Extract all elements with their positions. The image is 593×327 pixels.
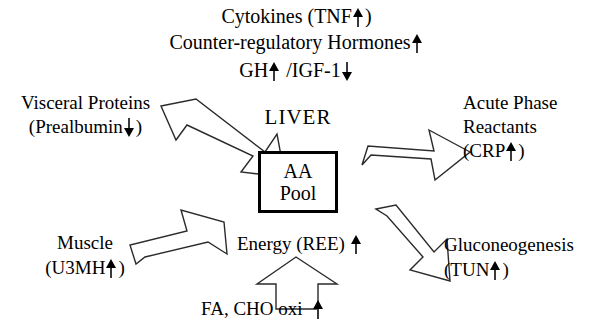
muscle-line2: (U3MH)	[20, 257, 150, 279]
crp-label: (CRP	[463, 140, 505, 161]
up-arrow-icon	[412, 34, 423, 53]
u3mh-label: (U3MH	[45, 257, 105, 278]
visceral-proteins-line2: (Prealbumin)	[8, 116, 163, 138]
liver-metabolism-diagram: Cytokines (TNF) Counter-regulatory Hormo…	[0, 0, 593, 327]
liver-label: LIVER	[246, 105, 350, 130]
prealbumin-label: (Prealbumin	[29, 116, 123, 137]
gluconeogenesis-line2: (TUN)	[444, 259, 509, 281]
up-arrow-icon	[506, 142, 517, 161]
cytokines-line: Cytokines (TNF)	[0, 5, 593, 29]
cytokines-paren: )	[365, 5, 372, 27]
gh-igf1-line: GH /IGF-1	[0, 59, 593, 83]
aa-pool-line1: AA	[284, 160, 313, 182]
up-arrow-icon	[490, 261, 501, 280]
arrow-pool-to-acute-phase	[362, 130, 470, 180]
counter-regulatory-hormones-line: Counter-regulatory Hormones	[0, 31, 593, 55]
counter-regulatory-hormones-label: Counter-regulatory Hormones	[169, 31, 410, 53]
fa-cho-oxi-label: FA, CHO oxi	[201, 298, 303, 319]
up-arrow-icon	[313, 300, 324, 319]
acute-phase-line2: Reactants	[463, 116, 537, 138]
up-arrow-icon	[351, 235, 362, 254]
crp-paren: )	[518, 140, 524, 161]
tun-paren: )	[502, 259, 508, 280]
aa-pool-box: AA Pool	[258, 151, 338, 213]
visceral-proteins-line1: Visceral Proteins	[8, 92, 163, 114]
acute-phase-line1: Acute Phase	[463, 92, 557, 114]
up-arrow-icon	[106, 259, 117, 278]
cytokines-label: Cytokines (TNF	[221, 5, 352, 27]
fa-cho-oxi-line: FA, CHO oxi	[201, 298, 325, 320]
acute-phase-line3: (CRP)	[463, 140, 525, 162]
prealbumin-paren: )	[136, 116, 142, 137]
u3mh-paren: )	[118, 257, 124, 278]
arrow-pool-to-gluconeogenesis	[376, 205, 450, 281]
muscle-line1: Muscle	[20, 232, 150, 254]
gh-label: GH	[239, 59, 268, 81]
up-arrow-icon	[269, 62, 280, 81]
igf1-label: /IGF-1	[286, 59, 340, 81]
energy-ree-label: Energy (REE)	[237, 233, 345, 254]
energy-ree-line: Energy (REE)	[237, 233, 363, 255]
tun-label: (TUN	[444, 259, 489, 280]
up-arrow-icon	[353, 8, 364, 27]
gluconeogenesis-line1: Gluconeogenesis	[444, 234, 574, 256]
down-arrow-icon	[124, 118, 135, 137]
aa-pool-line2: Pool	[280, 182, 317, 204]
down-arrow-icon	[342, 62, 353, 81]
